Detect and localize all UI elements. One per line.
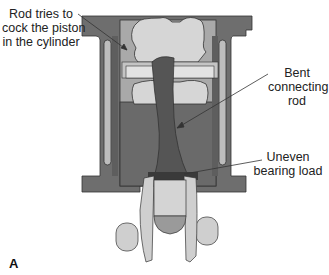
label-line: in the cylinder xyxy=(2,35,80,49)
label-rod-cocks-piston: Rod tries to cock the piston in the cyli… xyxy=(2,7,80,49)
label-line: Uneven xyxy=(248,150,328,164)
label-line: connecting xyxy=(268,80,326,94)
piston-crown xyxy=(132,18,206,63)
label-bent-connecting-rod: Bent connecting rod xyxy=(268,66,326,108)
label-line: cock the piston xyxy=(2,21,80,35)
panel-letter: A xyxy=(9,256,18,271)
label-line: Rod tries to xyxy=(2,7,80,21)
label-line: bearing load xyxy=(248,164,328,178)
label-line: Bent xyxy=(268,66,326,80)
label-line: rod xyxy=(268,94,326,108)
label-uneven-bearing-load: Uneven bearing load xyxy=(248,150,328,178)
